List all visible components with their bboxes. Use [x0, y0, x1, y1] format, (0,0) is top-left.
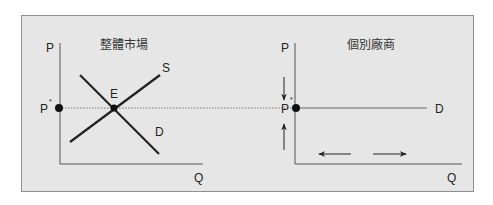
right-price-label: P [281, 102, 289, 116]
right-panel-title: 個別廠商 [347, 37, 395, 52]
demand-label: D [155, 125, 164, 139]
left-price-point [55, 104, 63, 112]
right-x-axis-label: Q [447, 171, 456, 185]
left-panel-title: 整體市場 [100, 37, 148, 52]
left-y-axis-label: P [46, 41, 54, 55]
equilibrium-label: E [110, 87, 118, 101]
equilibrium-point [111, 105, 118, 112]
right-panel: P Q 個別廠商 P * D [281, 37, 462, 185]
right-price-superscript: * [290, 96, 293, 103]
right-price-point [292, 104, 300, 112]
left-panel: P Q 整體市場 P * E S D [40, 37, 296, 185]
left-price-superscript: * [49, 98, 52, 105]
right-y-axis-label: P [281, 41, 289, 55]
demand-curve [80, 75, 159, 154]
market-diagram: P Q 整體市場 P * E S D P Q 個別廠商 P * D [0, 0, 493, 205]
left-x-axis-label: Q [194, 171, 203, 185]
firm-demand-label: D [435, 102, 444, 116]
supply-label: S [162, 61, 170, 75]
left-price-label: P [40, 102, 48, 116]
